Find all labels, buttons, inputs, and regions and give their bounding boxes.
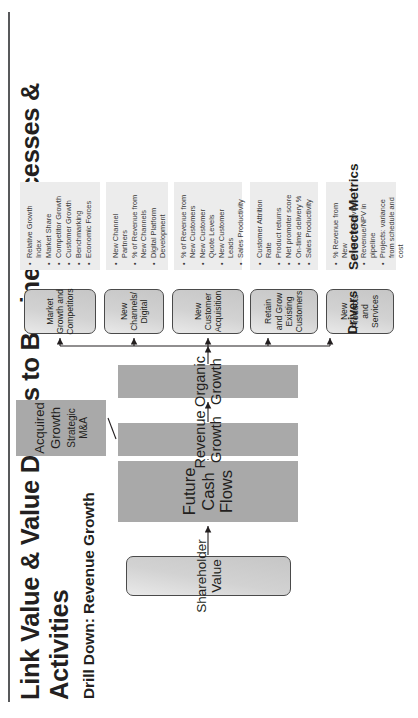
page-title: Link Value & Value Drivers to Business P… xyxy=(16,60,74,700)
row-label-drivers: Drivers xyxy=(346,291,360,334)
metric-item: Product returns xyxy=(274,187,283,258)
acquired-growth-sublabel: Strategic M&A xyxy=(66,400,90,456)
node-revenue-growth[interactable]: Revenue Growth xyxy=(118,423,298,456)
row-label-selected-metrics: Selected Metrics xyxy=(346,163,361,270)
diagram-canvas: Link Value & Value Drivers to Business P… xyxy=(0,0,418,718)
metric-item: Sales Productivity xyxy=(236,187,245,258)
node-future-cash-flows[interactable]: Future Cash Flows xyxy=(118,461,298,522)
node-acquired-growth[interactable]: Acquired Growth Strategic M&A xyxy=(16,400,106,456)
metrics-retain-and-grow-existing-customers: Customer Attrition Rate Product returns … xyxy=(250,182,318,270)
metric-item: Competitor Growth xyxy=(54,187,63,258)
node-organic-growth[interactable]: Organic Growth xyxy=(118,365,298,398)
driver-retain-and-grow-existing-customers[interactable]: Retain and Grow Existing Customers xyxy=(250,289,318,334)
metrics-new-channels-digital: New Channel Partners % of Revenue from N… xyxy=(106,182,168,270)
driver-new-customer-acquisition[interactable]: New Customer Acquisition xyxy=(172,289,244,334)
metric-item: New Customer Quote Levels xyxy=(198,187,216,258)
metric-item: Revenue/NPV in pipeline xyxy=(359,187,377,258)
title-rule xyxy=(8,12,10,702)
metric-item: % of Revenue from New Channels xyxy=(130,187,148,258)
metric-item: Customer Growth xyxy=(64,187,73,258)
rotated-slide-canvas: Link Value & Value Drivers to Business P… xyxy=(0,0,418,718)
driver-market-growth-and-competitors[interactable]: Market Growth and Competitors xyxy=(24,289,96,334)
metric-item: Digital Platform Development xyxy=(149,187,167,258)
metric-item: Sales Productivity xyxy=(304,187,313,258)
node-shareholder-value[interactable]: Shareholder Value xyxy=(126,556,291,596)
metric-item: Projects: variance from schedule and cos… xyxy=(378,187,405,258)
metric-item: Net promoter score xyxy=(284,187,293,258)
metrics-new-products-and-services: % Revenue from New Products/Services Rev… xyxy=(326,182,396,270)
driver-new-channels-digital[interactable]: New Channels/ Digital xyxy=(104,289,164,334)
metric-item: Benchmarking xyxy=(74,187,83,258)
acquired-growth-label: Acquired Growth xyxy=(32,400,63,456)
metric-item: New Channel Partners xyxy=(111,187,129,258)
metric-item: New Customer Leads xyxy=(217,187,235,258)
metric-item: % of Revenue from New Customers xyxy=(179,187,197,258)
metric-item: Market Share xyxy=(44,187,53,258)
metric-item: Relative Growth Index xyxy=(25,187,43,258)
metrics-new-customer-acquisition: % of Revenue from New Customers New Cust… xyxy=(174,182,242,270)
driver-new-products-and-services[interactable]: New Products and Services xyxy=(326,289,394,334)
metric-item: Economic Forces xyxy=(84,187,93,258)
metrics-market-growth-and-competitors: Relative Growth Index Market Share Compe… xyxy=(20,182,100,270)
metric-item: Customer Attrition Rate xyxy=(255,187,273,258)
metric-item: On-time delivery % xyxy=(294,187,303,258)
